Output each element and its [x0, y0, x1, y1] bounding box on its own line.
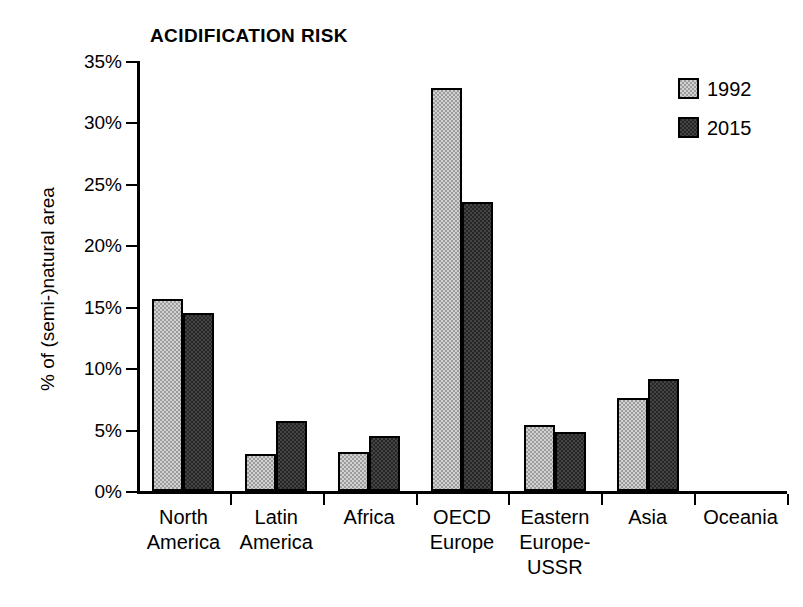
bar: [555, 432, 586, 491]
y-tick-mark: [126, 61, 137, 63]
x-tick-mark: [416, 494, 418, 505]
y-tick-label: 35%: [52, 52, 122, 71]
x-category-label: Eastern Europe- USSR: [508, 505, 601, 580]
y-tick-label: 20%: [52, 236, 122, 255]
bar: [369, 436, 400, 491]
x-category-label: OECD Europe: [416, 505, 509, 555]
legend-label: 1992: [707, 79, 752, 99]
legend-item: 1992: [678, 78, 752, 99]
bar: [462, 202, 493, 491]
x-category-label: Asia: [601, 505, 694, 530]
y-tick-mark: [126, 491, 137, 493]
x-category-label: Oceania: [694, 505, 787, 530]
x-tick-mark: [787, 494, 789, 505]
legend-swatch-icon: [678, 117, 699, 138]
x-category-label: Africa: [323, 505, 416, 530]
y-tick-label: 0%: [52, 482, 122, 501]
bar: [152, 299, 183, 491]
legend-label: 2015: [707, 118, 752, 138]
y-tick-label: 25%: [52, 175, 122, 194]
legend-item: 2015: [678, 117, 752, 138]
y-tick-label: 30%: [52, 113, 122, 132]
bar: [338, 452, 369, 491]
y-axis-line: [137, 61, 140, 491]
legend-swatch-icon: [678, 78, 699, 99]
x-tick-mark: [694, 494, 696, 505]
y-tick-mark: [126, 122, 137, 124]
y-tick-mark: [126, 307, 137, 309]
bar: [431, 88, 462, 491]
bar: [648, 379, 679, 491]
bar: [524, 425, 555, 491]
bar: [183, 313, 214, 491]
x-tick-mark: [323, 494, 325, 505]
page-title: ACIDIFICATION RISK: [150, 25, 348, 47]
y-tick-label: 10%: [52, 359, 122, 378]
y-tick-mark: [126, 368, 137, 370]
x-tick-mark: [508, 494, 510, 505]
y-tick-label: 15%: [52, 298, 122, 317]
bar: [617, 398, 648, 491]
legend: 19922015: [678, 78, 752, 156]
y-tick-mark: [126, 184, 137, 186]
bar: [245, 454, 276, 491]
x-tick-mark: [230, 494, 232, 505]
chart-page: ACIDIFICATION RISK % of (semi-)natural a…: [0, 0, 803, 607]
x-axis-line: [137, 491, 787, 494]
y-tick-label: 5%: [52, 421, 122, 440]
x-tick-mark: [601, 494, 603, 505]
bar: [276, 421, 307, 491]
y-tick-mark: [126, 430, 137, 432]
x-category-label: Latin America: [230, 505, 323, 555]
y-tick-mark: [126, 245, 137, 247]
x-category-label: North America: [137, 505, 230, 555]
